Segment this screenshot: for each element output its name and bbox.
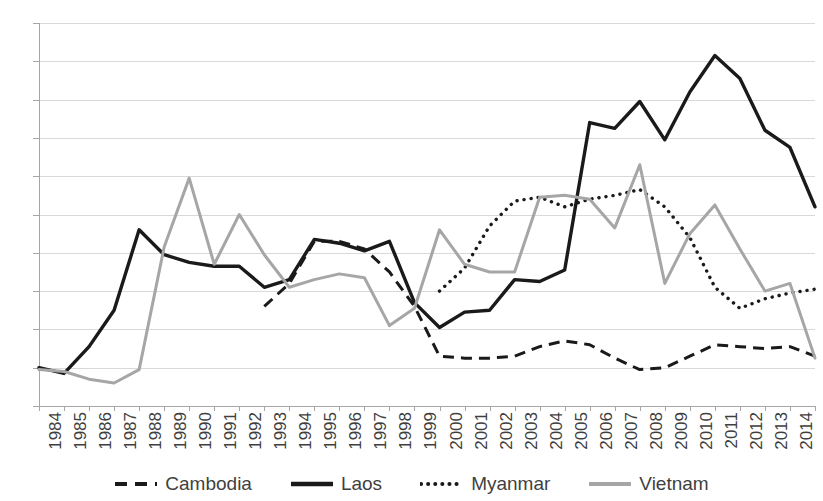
series-line-myanmar [440,190,815,309]
legend-label: Vietnam [639,474,708,493]
legend-label: Cambodia [165,474,252,493]
legend-swatch-cambodia [114,477,158,491]
legend-label: Laos [341,474,382,493]
series-line-laos [39,56,815,374]
series-layer [0,0,823,501]
legend-item-vietnam[interactable]: Vietnam [588,474,708,493]
series-line-vietnam [39,165,815,383]
legend-item-cambodia[interactable]: Cambodia [114,474,252,493]
legend-swatch-vietnam [588,477,632,491]
legend-swatch-myanmar [420,477,464,491]
legend-swatch-laos [290,477,334,491]
legend-item-laos[interactable]: Laos [290,474,382,493]
chart-legend: CambodiaLaosMyanmarVietnam [0,466,823,501]
line-chart: 02468101214161820 1984198519861987198819… [0,0,823,501]
legend-label: Myanmar [471,474,550,493]
legend-item-myanmar[interactable]: Myanmar [420,474,550,493]
series-line-cambodia [264,241,815,369]
